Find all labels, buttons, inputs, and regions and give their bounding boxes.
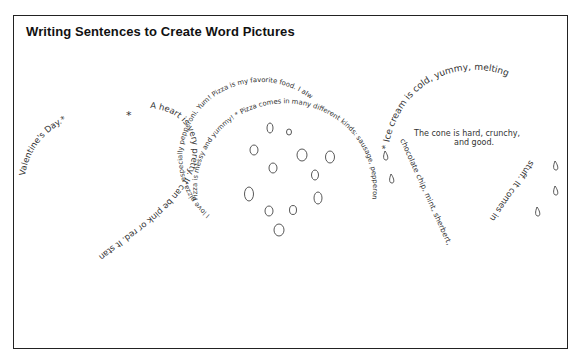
topping-icon [287,129,292,135]
drop-icon [384,151,388,160]
cone-text-line2: and good. [454,138,494,147]
topping-icon [250,145,258,155]
drop-icon [536,207,540,216]
topping-icon [290,206,297,215]
topping-icon [326,151,335,163]
drop-icon [390,174,394,183]
cone-right-text: stuff. It comes in [488,159,537,223]
heart-text-lobe: Valentine's Day.* [17,114,67,177]
ice-cream-word-picture: * Ice cream is cold, yummy, melting stuf… [380,62,558,246]
topping-icon [269,163,277,173]
cone-left-text: chocolate chip, mint, sherbert, [398,137,454,246]
asterisk-icon: * [126,109,132,122]
heart-text-right: A heart is very pretty. It can be pink o… [0,0,201,262]
topping-icon [245,187,254,201]
drop-icon [554,186,558,195]
topping-icon [312,170,319,180]
heart-word-picture: Valentine's Day.* A heart is very pretty… [0,0,201,262]
drop-icon [554,161,558,170]
word-pictures-illustration: Valentine's Day.* A heart is very pretty… [0,0,579,351]
topping-icon [297,149,307,161]
topping-icon [274,224,284,236]
topping-icon [265,206,273,216]
topping-icon [314,192,322,204]
cone-text-line1: The cone is hard, crunchy, [413,129,520,138]
pepperoni-toppings [245,123,335,236]
topping-icon [267,123,273,133]
